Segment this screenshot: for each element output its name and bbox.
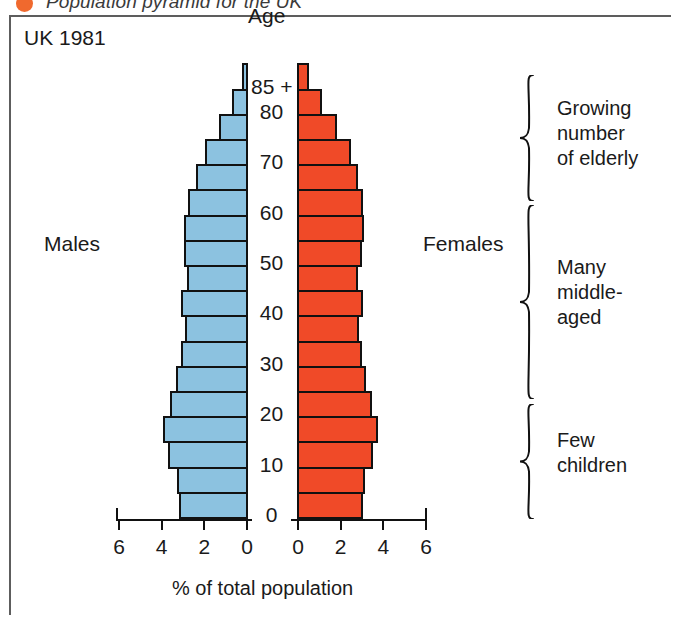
x-axis-line xyxy=(291,519,427,521)
age-tick-85+: 85 + xyxy=(251,75,321,99)
age-tick-40: 40 xyxy=(250,301,293,325)
age-tick-60: 60 xyxy=(250,201,293,225)
x-tick-label-right-0: 0 xyxy=(283,535,313,559)
x-tick-label-left-4: 4 xyxy=(147,535,177,559)
age-tick-30: 30 xyxy=(250,352,293,376)
x-tick-label-right-6: 6 xyxy=(411,535,441,559)
annotation-label-growing-elderly: Growing number of elderly xyxy=(557,96,638,171)
x-tick-left-4 xyxy=(161,519,163,530)
x-tick-label-left-2: 2 xyxy=(189,535,219,559)
annotation-label-many-middle-aged: Many middle- aged xyxy=(557,255,623,330)
age-tick-80: 80 xyxy=(250,100,293,124)
x-tick-left-6 xyxy=(118,519,120,530)
x-axis-line xyxy=(116,519,252,521)
annotation-label-few-children: Few children xyxy=(557,428,627,478)
age-tick-10: 10 xyxy=(250,453,293,477)
brace-many-middle-aged xyxy=(519,205,541,399)
x-tick-right-0 xyxy=(297,519,299,530)
brace-few-children xyxy=(519,404,541,519)
x-tick-label-right-2: 2 xyxy=(326,535,356,559)
x-tick-label-right-4: 4 xyxy=(368,535,398,559)
age-tick-0: 0 xyxy=(250,503,293,527)
age-tick-50: 50 xyxy=(250,251,293,275)
x-tick-label-left-6: 6 xyxy=(104,535,134,559)
age-tick-70: 70 xyxy=(250,150,293,174)
x-tick-right-2 xyxy=(340,519,342,530)
brace-growing-elderly xyxy=(519,75,541,201)
age-tick-20: 20 xyxy=(250,402,293,426)
x-tick-label-left-0: 0 xyxy=(232,535,262,559)
x-axis-endcap-left xyxy=(116,508,118,521)
x-tick-right-4 xyxy=(382,519,384,530)
x-axis-endcap-right xyxy=(425,508,427,521)
x-tick-left-0 xyxy=(246,519,248,530)
x-tick-left-2 xyxy=(203,519,205,530)
